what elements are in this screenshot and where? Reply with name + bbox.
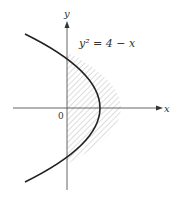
- equation-label: y² = 4 − x: [78, 37, 136, 50]
- y-axis-label: y: [63, 8, 70, 19]
- x-axis-label: x: [164, 103, 170, 114]
- x-axis-arrow-icon: [156, 106, 163, 111]
- y-axis-arrow-icon: [65, 21, 70, 28]
- parabola-diagram: y² = 4 − x x y 0: [0, 0, 174, 197]
- origin-label: 0: [58, 111, 64, 121]
